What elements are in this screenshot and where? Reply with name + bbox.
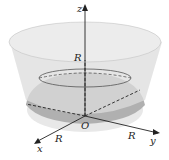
z-radius-label: R: [74, 53, 82, 63]
cone-sphere-diagram: [0, 0, 169, 160]
origin-label: O: [81, 121, 89, 131]
y-axis-label: y: [150, 136, 156, 146]
y-radius-label: R: [128, 131, 136, 141]
x-axis-label: x: [37, 144, 43, 154]
z-axis-label: z: [77, 4, 82, 14]
z-arrow-icon: [82, 4, 88, 11]
x-radius-label: R: [55, 134, 63, 144]
